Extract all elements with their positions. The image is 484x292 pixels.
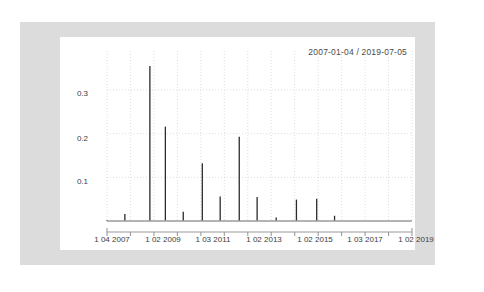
grid-lines bbox=[107, 51, 412, 221]
series-bars bbox=[107, 66, 335, 221]
axis-lines bbox=[107, 221, 412, 236]
screenshot-root: 2007-01-04 / 2019-07-05 0.3 0.2 0.1 1 04… bbox=[0, 0, 484, 292]
figure-frame: 2007-01-04 / 2019-07-05 0.3 0.2 0.1 1 04… bbox=[20, 22, 435, 265]
chart-panel: 2007-01-04 / 2019-07-05 0.3 0.2 0.1 1 04… bbox=[60, 37, 415, 250]
chart-plot-area bbox=[60, 37, 415, 250]
